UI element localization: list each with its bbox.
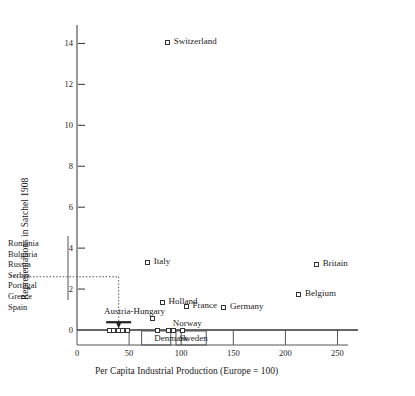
x-tick-250: 250 [327, 348, 347, 358]
y-tick-0: 0 [59, 325, 73, 335]
x-tick-0: 0 [67, 348, 87, 358]
marker-italy [145, 260, 150, 265]
marker-zero-cluster-4 [125, 328, 130, 333]
excluded-country-bulgaria: Bulgaria [8, 249, 39, 260]
marker-sweden [180, 328, 185, 333]
y-tick-2: 2 [59, 284, 73, 294]
x-tick-200: 200 [275, 348, 295, 358]
marker-germany [221, 305, 226, 310]
marker-switzerland [165, 40, 170, 45]
point-label-italy: Italy [154, 256, 171, 266]
x-tick-50: 50 [119, 348, 139, 358]
excluded-country-russia: Russia [8, 259, 39, 270]
point-label-germany: Germany [230, 301, 264, 311]
y-tick-12: 12 [59, 79, 73, 89]
marker-zero-cluster-5 [171, 328, 176, 333]
point-label-sweden: Sweden [179, 333, 208, 343]
y-tick-6: 6 [59, 202, 73, 212]
excluded-country-spain: Spain [8, 302, 39, 313]
y-tick-14: 14 [59, 38, 73, 48]
excluded-country-list: RomaniaBulgariaRussiaSerbiaPortugalGreec… [8, 238, 39, 312]
point-label-belgium: Belgium [305, 288, 336, 298]
excluded-country-greece: Greece [8, 291, 39, 302]
excluded-country-serbia: Serbia [8, 270, 39, 281]
y-tick-10: 10 [59, 120, 73, 130]
chart-canvas: 02468101214 050100150200250 SwitzerlandI… [0, 0, 415, 396]
marker-austria-hungary [150, 316, 155, 321]
marker-france [184, 304, 189, 309]
excluded-country-portugal: Portugal [8, 280, 39, 291]
marker-holland [160, 300, 165, 305]
point-label-norway: Norway [173, 318, 202, 328]
marker-belgium [296, 292, 301, 297]
x-axis-title: Per Capita Industrial Production (Europe… [95, 366, 278, 376]
point-label-austria-hungary: Austria-Hungary [104, 306, 165, 316]
marker-denmark [155, 328, 160, 333]
point-label-britain: Britain [323, 258, 348, 268]
y-tick-8: 8 [59, 161, 73, 171]
x-tick-150: 150 [223, 348, 243, 358]
excluded-country-romania: Romania [8, 238, 39, 249]
x-tick-100: 100 [171, 348, 191, 358]
point-label-france: France [192, 300, 217, 310]
point-label-switzerland: Switzerland [174, 36, 217, 46]
y-tick-4: 4 [59, 243, 73, 253]
marker-britain [314, 262, 319, 267]
